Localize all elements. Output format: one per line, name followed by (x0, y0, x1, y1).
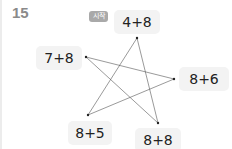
dot-left[interactable] (85, 56, 87, 58)
dot-right[interactable] (173, 78, 175, 80)
line-top-to-bottom-right (137, 38, 158, 123)
dot-top[interactable] (136, 37, 138, 39)
dot-bottom-right[interactable] (157, 122, 159, 124)
dot-bottom-left[interactable] (87, 114, 89, 116)
line-right-to-bottom-left (88, 79, 174, 115)
line-top-to-bottom-left (88, 38, 137, 115)
star-connection-lines (0, 0, 232, 149)
line-left-to-right (86, 57, 174, 79)
